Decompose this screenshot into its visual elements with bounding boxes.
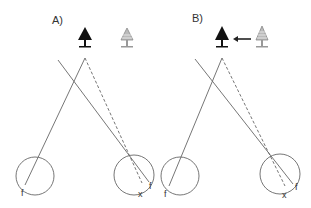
panel-b: B) f f x [161,12,300,200]
right-eye-circle [114,155,154,195]
right-eye-circle [260,154,300,194]
dark-tree-icon [78,27,92,48]
panel-a: A) f f x [16,14,154,199]
sightline-left-eye [169,58,222,186]
dashed-sightline [85,58,142,183]
right-eye-x-label: x [138,189,143,199]
left-eye-circle [161,157,199,195]
dark-tree-icon [215,26,229,48]
sightline-right-eye [195,59,293,184]
dashed-sightline [222,58,285,186]
left-arrow-icon [233,36,251,42]
light-tree-icon [121,28,133,48]
sightline-left-eye [25,58,85,185]
panel-b-label: B) [192,12,203,24]
binocular-diagram: A) f f x B) [0,0,311,208]
left-eye-fovea-label: f [21,188,24,198]
right-eye-fovea-label: f [149,181,152,191]
light-tree-icon [256,26,268,48]
right-eye-x-label: x [282,190,287,200]
sightline-right-eye [58,60,149,182]
panel-a-label: A) [52,14,63,26]
left-eye-fovea-label: f [164,189,167,199]
